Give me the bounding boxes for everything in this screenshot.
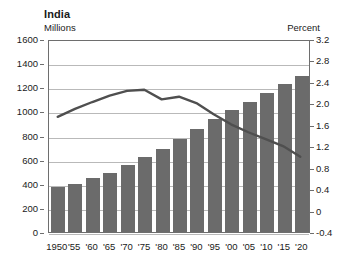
x-axis-tick-label: '20 xyxy=(295,241,307,252)
right-axis-tick-label: 1.6 xyxy=(316,121,329,131)
right-axis-tick-mark xyxy=(310,61,314,62)
right-axis-tick-mark xyxy=(310,83,314,84)
left-axis-tick-mark xyxy=(40,64,44,65)
left-axis-tick-label: 1400 xyxy=(17,59,38,69)
left-axis-tick-label: 1200 xyxy=(17,83,38,93)
x-axis-tick-label: '10 xyxy=(260,241,272,252)
x-axis-tick-label: '05 xyxy=(243,241,255,252)
left-axis-tick-label: 800 xyxy=(22,132,38,142)
x-axis-tick-label: '55 xyxy=(68,241,80,252)
right-axis: 3.22.82.42.01.61.20.80.40-0.4 xyxy=(310,40,354,255)
chart-title: India xyxy=(44,8,70,20)
left-axis-tick-label: 400 xyxy=(22,180,38,190)
right-axis-tick-label: 1.2 xyxy=(316,142,329,152)
right-axis-tick-label: 3.2 xyxy=(316,35,329,45)
right-axis-tick-label: 0 xyxy=(316,207,321,217)
x-axis-tick-label: '75 xyxy=(138,241,150,252)
x-axis-tick-label: '00 xyxy=(225,241,237,252)
line-series-svg xyxy=(49,41,309,232)
left-axis: 16001400120010008006004002000 xyxy=(0,40,44,233)
left-axis-tick-mark xyxy=(40,233,44,234)
x-axis-tick-label: '90 xyxy=(190,241,202,252)
x-axis-tick-label: '60 xyxy=(85,241,97,252)
right-axis-tick-label: 2.0 xyxy=(316,99,329,109)
left-axis-tick-mark xyxy=(40,161,44,162)
right-axis-tick-label: 0.8 xyxy=(316,164,329,174)
right-axis-tick-mark xyxy=(310,212,314,213)
left-axis-tick-mark xyxy=(40,209,44,210)
x-axis-tick-label: '15 xyxy=(278,241,290,252)
left-axis-tick-label: 200 xyxy=(22,204,38,214)
x-axis-tick-label: '95 xyxy=(208,241,220,252)
plot-area xyxy=(48,40,310,233)
right-axis-tick-label: -0.4 xyxy=(316,228,332,238)
right-axis-tick-label: 2.4 xyxy=(316,78,329,88)
left-axis-tick-mark xyxy=(40,137,44,138)
left-axis-tick-mark xyxy=(40,185,44,186)
x-axis: 1950'55'60'65'70'75'80'85'90'95'00'05'10… xyxy=(48,235,310,255)
x-axis-tick-label: 1950 xyxy=(46,241,67,252)
x-axis-tick-label: '80 xyxy=(155,241,167,252)
left-axis-tick-label: 1600 xyxy=(17,35,38,45)
right-axis-tick-label: 2.8 xyxy=(316,56,329,66)
right-axis-tick-mark xyxy=(310,169,314,170)
left-axis-tick-label: 0 xyxy=(33,228,38,238)
right-axis-tick-mark xyxy=(310,126,314,127)
x-axis-tick-label: '70 xyxy=(120,241,132,252)
left-axis-tick-mark xyxy=(40,88,44,89)
right-axis-tick-mark xyxy=(310,190,314,191)
x-axis-tick-label: '85 xyxy=(173,241,185,252)
left-axis-tick-mark xyxy=(40,112,44,113)
left-axis-unit-label: Millions xyxy=(44,22,76,33)
right-axis-tick-mark xyxy=(310,104,314,105)
right-axis-tick-mark xyxy=(310,40,314,41)
right-axis-tick-mark xyxy=(310,147,314,148)
chart-container: India Millions Percent 16001400120010008… xyxy=(0,0,356,266)
right-axis-unit-label: Percent xyxy=(287,22,320,33)
right-axis-tick-label: 0.4 xyxy=(316,185,329,195)
right-axis-tick-mark xyxy=(310,233,314,234)
x-axis-tick-label: '65 xyxy=(103,241,115,252)
line-series xyxy=(49,41,309,232)
left-axis-tick-mark xyxy=(40,40,44,41)
left-axis-tick-label: 600 xyxy=(22,156,38,166)
left-axis-tick-label: 1000 xyxy=(17,107,38,117)
